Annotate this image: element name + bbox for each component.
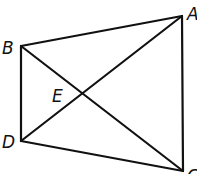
- segment-CA: [182, 16, 183, 171]
- diagonal-BC: [21, 46, 183, 171]
- point-label-c: C: [187, 166, 197, 174]
- segment-AB: [21, 16, 182, 46]
- diagonal-AD: [21, 16, 182, 141]
- point-label-a: A: [186, 4, 197, 24]
- point-label-d: D: [2, 132, 15, 152]
- point-label-b: B: [2, 38, 14, 58]
- segment-DC: [21, 141, 183, 171]
- point-label-e: E: [52, 86, 63, 106]
- quadrilateral-diagram: ABCDE: [0, 0, 197, 174]
